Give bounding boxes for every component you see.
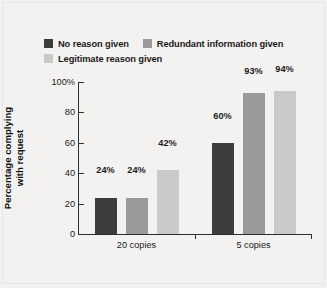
x-axis-end-tick [311, 234, 312, 239]
bar-5-copies-legitimate-reason-given [274, 91, 296, 234]
bar-value-5-copies-legitimate-reason-given: 94% [275, 64, 293, 74]
bar-slot-5-copies-no-reason-given: 60% [212, 82, 234, 234]
y-axis-title: Percentage complying with request [0, 78, 26, 238]
y-tick-label-40: 40 [65, 168, 75, 178]
bar-slot-5-copies-redundant-information-given: 93% [243, 82, 265, 234]
legend-swatch-icon-no-reason-given [44, 39, 53, 48]
bar-value-20-copies-redundant-information-given: 24% [127, 165, 145, 175]
plot-area: 100% 80 60 40 20 0 24% [78, 82, 312, 234]
bar-value-5-copies-redundant-information-given: 93% [244, 66, 262, 76]
y-tick-label-20: 20 [65, 199, 75, 209]
bar-group-20-copies: 24% 24% 42% 20 copies [78, 82, 195, 234]
y-tick-label-100: 100% [52, 77, 76, 87]
x-axis-label-5-copies: 5 copies [236, 240, 270, 250]
legend-swatch-icon-redundant-information-given [143, 39, 152, 48]
bar-5-copies-no-reason-given [212, 143, 234, 234]
legend-row-2: Legitimate reason given [44, 52, 314, 65]
bar-slot-5-copies-legitimate-reason-given: 94% [274, 82, 296, 234]
bar-groups: 24% 24% 42% 20 copies 60% [78, 82, 312, 234]
bar-slot-20-copies-redundant-information-given: 24% [126, 82, 148, 234]
bar-slot-20-copies-no-reason-given: 24% [95, 82, 117, 234]
legend-swatch-icon-legitimate-reason-given [44, 54, 53, 63]
bar-value-5-copies-no-reason-given: 60% [213, 111, 231, 121]
bar-20-copies-no-reason-given [95, 198, 117, 234]
bar-20-copies-legitimate-reason-given [157, 170, 179, 234]
y-axis-title-line2: with request [13, 130, 24, 187]
y-tick-label-60: 60 [65, 138, 75, 148]
y-axis-title-line1: Percentage complying [2, 107, 13, 209]
bar-slot-20-copies-legitimate-reason-given: 42% [157, 82, 179, 234]
legend-item-redundant-information-given: Redundant information given [143, 39, 283, 49]
legend-label-legitimate-reason-given: Legitimate reason given [58, 54, 162, 64]
legend-label-redundant-information-given: Redundant information given [157, 39, 283, 49]
y-tick-0: 0 [79, 234, 84, 235]
bar-chart-figure: No reason given Redundant information gi… [0, 0, 327, 288]
legend-row-1: No reason given Redundant information gi… [44, 37, 314, 50]
bar-value-20-copies-no-reason-given: 24% [96, 165, 114, 175]
chart-legend: No reason given Redundant information gi… [44, 37, 314, 67]
bar-value-20-copies-legitimate-reason-given: 42% [158, 138, 176, 148]
bar-group-5-copies: 60% 93% 94% 5 copies [195, 82, 312, 234]
legend-item-legitimate-reason-given: Legitimate reason given [44, 54, 162, 64]
x-axis-group-separator-tick [195, 234, 196, 239]
legend-label-no-reason-given: No reason given [58, 39, 129, 49]
x-axis-label-20-copies: 20 copies [117, 240, 156, 250]
bar-5-copies-redundant-information-given [243, 93, 265, 234]
y-tick-label-80: 80 [65, 107, 75, 117]
legend-item-no-reason-given: No reason given [44, 39, 129, 49]
bar-20-copies-redundant-information-given [126, 198, 148, 234]
y-tick-label-0: 0 [70, 229, 75, 239]
